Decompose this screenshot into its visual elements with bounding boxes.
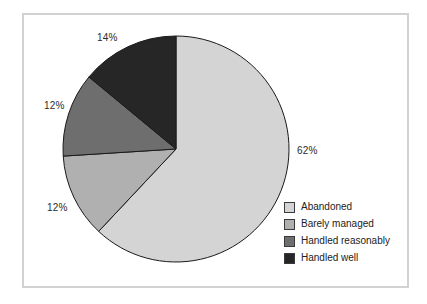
legend-swatch-icon-handled-reasonably: [284, 236, 295, 247]
legend-swatch-icon-barely-managed: [284, 219, 295, 230]
data-label-handled-reasonably: 12%: [44, 101, 65, 111]
legend-label-handled-reasonably: Handled reasonably: [301, 236, 390, 246]
legend-item-handled-reasonably[interactable]: Handled reasonably: [284, 234, 390, 248]
legend-item-barely-managed[interactable]: Barely managed: [284, 217, 390, 231]
data-label-barely-managed: 12%: [47, 203, 68, 213]
legend-item-abandoned[interactable]: Abandoned: [284, 200, 390, 214]
legend-item-handled-well[interactable]: Handled well: [284, 251, 390, 265]
legend-label-barely-managed: Barely managed: [301, 219, 374, 229]
legend-label-handled-well: Handled well: [301, 253, 358, 263]
legend-label-abandoned: Abandoned: [301, 202, 352, 212]
chart-legend: Abandoned Barely managed Handled reasona…: [284, 200, 390, 265]
legend-swatch-icon-handled-well: [284, 253, 295, 264]
data-label-abandoned: 62%: [297, 146, 318, 156]
data-label-handled-well: 14%: [97, 33, 118, 43]
legend-swatch-icon-abandoned: [284, 202, 295, 213]
